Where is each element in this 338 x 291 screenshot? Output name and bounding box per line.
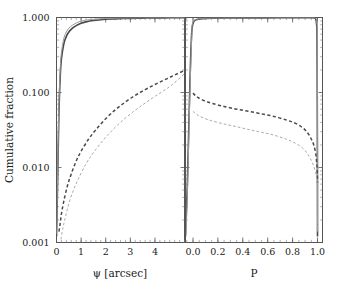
y-tick-label: 1.000 bbox=[22, 12, 49, 23]
curve-left-panel-solid-light bbox=[57, 18, 185, 234]
left-panel-frame bbox=[57, 18, 185, 243]
curve-right-panel-solid-dark bbox=[186, 18, 318, 237]
y-axis-label: Cumulative fraction bbox=[3, 77, 15, 183]
cumulative-fraction-plot: 1.0000.1000.0100.001012340.00.20.40.60.8… bbox=[0, 0, 338, 291]
curve-right-panel-dashed-light bbox=[193, 111, 318, 185]
curve-left-panel-solid-dark bbox=[57, 18, 185, 237]
curve-right-panel-solid-light bbox=[186, 18, 317, 234]
x-tick-label: 1 bbox=[78, 246, 84, 257]
right-panel-frame bbox=[186, 18, 323, 243]
x-tick-label: 0.0 bbox=[185, 246, 200, 257]
curve-left-panel-dashed-dark bbox=[59, 70, 185, 231]
curve-left-panel-dashed-light bbox=[61, 74, 185, 240]
right-x-axis-label: P bbox=[250, 267, 257, 279]
x-tick-label: 0.8 bbox=[285, 246, 300, 257]
curve-right-panel-dashed-dark bbox=[193, 93, 318, 183]
x-tick-label: 0 bbox=[53, 246, 59, 257]
x-tick-label: 0.6 bbox=[260, 246, 275, 257]
y-tick-label: 0.001 bbox=[22, 237, 49, 248]
x-tick-label: 0.4 bbox=[235, 246, 250, 257]
x-tick-label: 4 bbox=[152, 246, 158, 257]
x-tick-label: 0.2 bbox=[210, 246, 225, 257]
data-curves bbox=[57, 18, 318, 240]
x-tick-label: 3 bbox=[127, 246, 133, 257]
left-x-axis-label: ψ [arcsec] bbox=[93, 267, 147, 279]
x-tick-label: 1.0 bbox=[310, 246, 325, 257]
y-tick-label: 0.010 bbox=[22, 162, 49, 173]
axis-tick-labels: 1.0000.1000.0100.001012340.00.20.40.60.8… bbox=[22, 12, 325, 257]
figure-container: 1.0000.1000.0100.001012340.00.20.40.60.8… bbox=[0, 0, 338, 291]
x-tick-label: 2 bbox=[103, 246, 109, 257]
y-tick-label: 0.100 bbox=[22, 87, 49, 98]
